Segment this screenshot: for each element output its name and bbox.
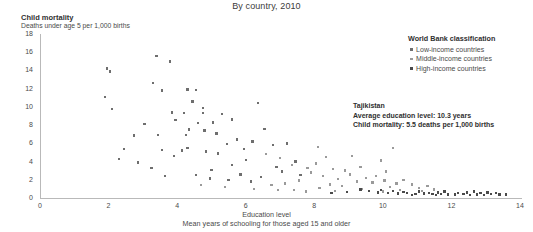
chart-subtitle: By country, 2010 xyxy=(0,1,533,11)
y-tick-label: 10 xyxy=(0,103,33,110)
scatter-point xyxy=(186,147,188,149)
scatter-point xyxy=(209,177,211,179)
x-axis-label-block: Education level Mean years of schooling … xyxy=(0,210,533,228)
legend: World Bank classification Low-income cou… xyxy=(408,34,495,73)
scatter-point xyxy=(375,175,377,177)
legend-item-label: Middle-income countries xyxy=(416,54,492,63)
scatter-point xyxy=(479,192,481,194)
x-tick-label: 12 xyxy=(439,202,463,209)
scatter-point xyxy=(155,55,157,57)
scatter-point xyxy=(426,185,428,187)
scatter-point xyxy=(414,193,416,195)
scatter-point xyxy=(164,175,166,177)
scatter-point xyxy=(440,193,442,195)
scatter-point xyxy=(183,112,185,114)
legend-marker-icon xyxy=(410,58,413,61)
scatter-point xyxy=(359,188,361,190)
scatter-point xyxy=(322,175,324,177)
scatter-point xyxy=(298,179,300,181)
scatter-point xyxy=(275,166,277,168)
scatter-point xyxy=(109,70,111,72)
scatter-point xyxy=(397,192,399,194)
scatter-point xyxy=(239,173,241,175)
scatter-point xyxy=(293,189,295,191)
scatter-point xyxy=(202,112,204,114)
scatter-point xyxy=(212,121,214,123)
scatter-point xyxy=(330,192,332,194)
scatter-point xyxy=(466,191,468,193)
scatter-point xyxy=(186,88,188,90)
legend-item-label: Low-income countries xyxy=(416,45,484,54)
scatter-point xyxy=(224,186,226,188)
scatter-point xyxy=(418,190,420,192)
scatter-point xyxy=(356,180,358,182)
scatter-point xyxy=(462,193,464,195)
scatter-point xyxy=(227,179,229,181)
legend-items: Low-income countriesMiddle-income countr… xyxy=(408,45,495,73)
scatter-point xyxy=(380,159,382,161)
scatter-point xyxy=(270,184,272,186)
x-tick-label: 8 xyxy=(302,202,326,209)
y-tick-label: 8 xyxy=(0,121,33,128)
legend-item[interactable]: Low-income countries xyxy=(408,45,495,54)
legend-item[interactable]: High-income countries xyxy=(408,64,495,73)
scatter-point xyxy=(317,146,319,148)
y-tick-label: 18 xyxy=(0,30,33,37)
scatter-point xyxy=(318,187,320,189)
scatter-point xyxy=(157,134,159,136)
scatter-point xyxy=(226,143,228,145)
scatter-point xyxy=(418,187,420,189)
scatter-point xyxy=(257,102,259,104)
y-tick-label: 2 xyxy=(0,176,33,183)
scatter-point xyxy=(111,108,113,110)
scatter-point xyxy=(205,150,207,152)
x-tick-label: 0 xyxy=(28,202,52,209)
x-tick-label: 2 xyxy=(97,202,121,209)
scatter-point xyxy=(495,192,497,194)
scatter-point xyxy=(171,111,173,113)
scatter-point xyxy=(250,180,252,182)
scatter-point xyxy=(473,190,475,192)
scatter-point xyxy=(277,189,279,191)
y-tick-label: 16 xyxy=(0,48,33,55)
y-tick-label: 0 xyxy=(0,194,33,201)
scatter-point xyxy=(251,140,253,142)
scatter-point xyxy=(243,148,245,150)
scatter-point xyxy=(221,113,223,115)
scatter-point xyxy=(152,82,154,84)
scatter-point xyxy=(305,190,307,192)
scatter-point xyxy=(433,188,435,190)
scatter-point xyxy=(200,184,202,186)
scatter-point xyxy=(332,168,334,170)
scatter-point xyxy=(371,181,373,183)
x-axis-title: Education level xyxy=(0,210,533,219)
scatter-point xyxy=(380,189,382,191)
scatter-point xyxy=(337,178,339,180)
scatter-point xyxy=(483,194,485,196)
scatter-point xyxy=(215,132,217,134)
scatter-point xyxy=(344,169,346,171)
scatter-point xyxy=(143,123,145,125)
scatter-point xyxy=(210,169,212,171)
scatter-point xyxy=(310,171,312,173)
scatter-point xyxy=(203,129,205,131)
scatter-point xyxy=(486,191,488,193)
y-tick-label: 4 xyxy=(0,158,33,165)
x-tick-label: 10 xyxy=(371,202,395,209)
x-tick-label: 14 xyxy=(508,202,532,209)
scatter-point xyxy=(435,194,437,196)
scatter-point xyxy=(118,158,120,160)
scatter-point xyxy=(191,100,193,102)
scatter-point xyxy=(411,183,413,185)
scatter-point xyxy=(377,191,379,193)
scatter-point xyxy=(490,193,492,195)
legend-item[interactable]: Middle-income countries xyxy=(408,54,495,63)
scatter-point xyxy=(281,170,283,172)
scatter-point xyxy=(245,159,247,161)
child-mortality-scatter-chart: By country, 2010 Child mortality Deaths … xyxy=(0,0,533,232)
scatter-point xyxy=(423,192,425,194)
scatter-point xyxy=(341,185,343,187)
scatter-point xyxy=(263,128,265,130)
legend-marker-icon xyxy=(410,67,413,70)
y-tick-label: 6 xyxy=(0,139,33,146)
